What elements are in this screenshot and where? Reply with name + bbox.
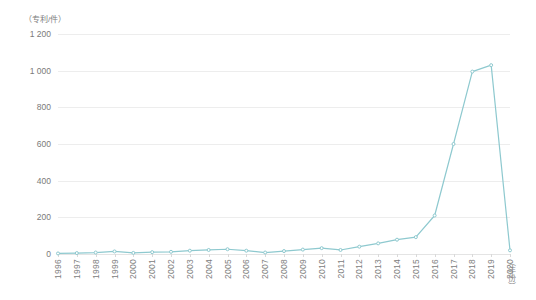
data-point-2006 bbox=[245, 249, 248, 252]
series-marker-group bbox=[57, 64, 512, 255]
data-point-2000 bbox=[132, 251, 135, 254]
x-tick-label-2000: 2000 bbox=[129, 259, 138, 279]
x-tick-label-2005: 2005 bbox=[223, 259, 232, 279]
x-tick-2004 bbox=[209, 254, 210, 257]
data-point-2005 bbox=[226, 248, 229, 251]
data-point-2015 bbox=[414, 236, 417, 239]
x-tick-label-2016: 2016 bbox=[430, 259, 439, 279]
x-axis-unit-label: （年份） bbox=[503, 258, 515, 290]
data-point-2002 bbox=[170, 250, 173, 253]
data-point-2007 bbox=[264, 251, 267, 254]
x-tick-label-1997: 1997 bbox=[72, 259, 81, 279]
data-point-2018 bbox=[471, 70, 474, 73]
x-tick-2015 bbox=[416, 254, 417, 257]
x-tick-label-2017: 2017 bbox=[449, 259, 458, 279]
data-point-2001 bbox=[151, 251, 154, 254]
x-tick-label-2002: 2002 bbox=[167, 259, 176, 279]
x-tick-2001 bbox=[152, 254, 153, 257]
x-tick-2010 bbox=[322, 254, 323, 257]
data-point-2010 bbox=[320, 247, 323, 250]
x-tick-2003 bbox=[190, 254, 191, 257]
x-tick-label-2004: 2004 bbox=[204, 259, 213, 279]
x-tick-label-1999: 1999 bbox=[110, 259, 119, 279]
y-tick-label-600: 600 bbox=[37, 139, 51, 149]
data-point-1996 bbox=[57, 252, 60, 255]
x-tick-label-2001: 2001 bbox=[148, 259, 157, 279]
y-tick-label-800: 800 bbox=[37, 102, 51, 112]
x-tick-label-1996: 1996 bbox=[54, 259, 63, 279]
data-point-2014 bbox=[396, 238, 399, 241]
x-tick-label-2018: 2018 bbox=[468, 259, 477, 279]
y-tick-label-1200: 1 200 bbox=[30, 29, 51, 39]
x-tick-2005 bbox=[228, 254, 229, 257]
x-tick-2019 bbox=[491, 254, 492, 257]
data-point-1999 bbox=[113, 250, 116, 253]
x-tick-label-2006: 2006 bbox=[242, 259, 251, 279]
x-tick-2016 bbox=[435, 254, 436, 257]
x-tick-label-1998: 1998 bbox=[91, 259, 100, 279]
y-tick-label-400: 400 bbox=[37, 176, 51, 186]
series-line-group bbox=[58, 34, 510, 254]
data-point-1997 bbox=[75, 252, 78, 255]
x-tick-2002 bbox=[171, 254, 172, 257]
x-tick-2013 bbox=[378, 254, 379, 257]
x-tick-2012 bbox=[359, 254, 360, 257]
x-tick-2018 bbox=[472, 254, 473, 257]
x-tick-label-2009: 2009 bbox=[298, 259, 307, 279]
data-point-2020 bbox=[509, 249, 512, 252]
x-tick-1999 bbox=[115, 254, 116, 257]
data-point-2003 bbox=[188, 249, 191, 252]
data-point-2008 bbox=[283, 250, 286, 253]
data-point-2012 bbox=[358, 245, 361, 248]
data-point-2016 bbox=[433, 214, 436, 217]
x-tick-label-2007: 2007 bbox=[261, 259, 270, 279]
x-tick-2009 bbox=[303, 254, 304, 257]
data-point-2017 bbox=[452, 143, 455, 146]
x-tick-label-2008: 2008 bbox=[280, 259, 289, 279]
x-tick-label-2015: 2015 bbox=[411, 259, 420, 279]
series-line-patents bbox=[58, 65, 510, 253]
y-axis-unit-label: （专利/件） bbox=[24, 14, 66, 25]
data-point-2004 bbox=[207, 248, 210, 251]
x-tick-2008 bbox=[284, 254, 285, 257]
data-point-1998 bbox=[94, 251, 97, 254]
patent-trend-line-chart: （专利/件） 02004006008001 0001 200 199619971… bbox=[0, 0, 536, 300]
x-tick-2011 bbox=[341, 254, 342, 257]
x-tick-2014 bbox=[397, 254, 398, 257]
y-tick-label-1000: 1 000 bbox=[30, 66, 51, 76]
x-tick-label-2011: 2011 bbox=[336, 259, 345, 278]
y-tick-label-0: 0 bbox=[46, 249, 51, 259]
data-point-2019 bbox=[490, 64, 493, 67]
x-tick-label-2013: 2013 bbox=[374, 259, 383, 279]
x-tick-label-2010: 2010 bbox=[317, 259, 326, 279]
x-tick-2020 bbox=[510, 254, 511, 257]
x-tick-2006 bbox=[246, 254, 247, 257]
data-point-2009 bbox=[301, 248, 304, 251]
x-tick-label-2014: 2014 bbox=[393, 259, 402, 279]
x-tick-label-2019: 2019 bbox=[487, 259, 496, 279]
x-tick-label-2012: 2012 bbox=[355, 259, 364, 279]
data-point-2013 bbox=[377, 242, 380, 245]
plot-area: 02004006008001 0001 200 1996199719981999… bbox=[58, 34, 510, 254]
x-tick-2017 bbox=[454, 254, 455, 257]
data-point-2011 bbox=[339, 248, 342, 251]
x-tick-label-2003: 2003 bbox=[185, 259, 194, 279]
y-tick-label-200: 200 bbox=[37, 212, 51, 222]
